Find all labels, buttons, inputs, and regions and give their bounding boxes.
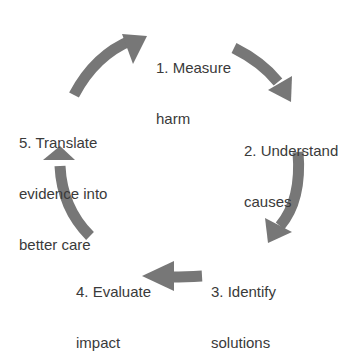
arrow-3-to-4	[172, 276, 202, 277]
arrow-5-to-1	[74, 40, 132, 95]
step-1-label: 1. Measure harm	[156, 25, 231, 144]
step-2-label: 2. Understand causes	[244, 108, 338, 227]
step-5-label: 5. Translate evidence into better care	[19, 100, 107, 270]
step-3-label: 3. Identify solutions	[211, 249, 276, 355]
arrow-1-to-2	[234, 48, 278, 82]
arrowhead-1	[122, 34, 147, 64]
